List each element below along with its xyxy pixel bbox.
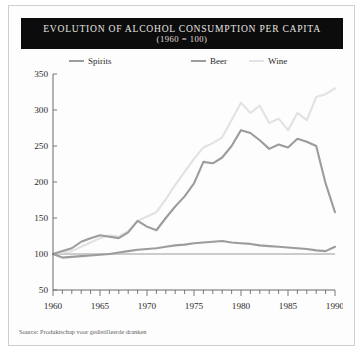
x-tick-label: 1985 [279, 301, 298, 311]
y-tick-label: 100 [34, 249, 48, 259]
y-tick-label: 350 [34, 69, 48, 79]
series-line-beer [53, 241, 335, 258]
series-line-wine [53, 88, 335, 254]
x-tick-label: 1970 [138, 301, 157, 311]
line-chart: 50100150200250300350 1960196519701975198… [21, 54, 343, 318]
page-title: EVOLUTION OF ALCOHOL CONSUMPTION PER CAP… [43, 23, 321, 34]
series-line-spirits [53, 130, 335, 254]
source-note: Source: Produktschap voor gedistilleerde… [19, 328, 146, 335]
chart-title-bar: EVOLUTION OF ALCOHOL CONSUMPTION PER CAP… [21, 18, 343, 49]
x-tick-label: 1980 [232, 301, 251, 311]
x-tick-label: 1990 [326, 301, 343, 311]
y-tick-label: 50 [39, 285, 49, 295]
x-tick-label: 1975 [185, 301, 204, 311]
x-tick-label: 1965 [91, 301, 110, 311]
x-tick-label: 1960 [44, 301, 63, 311]
y-tick-label: 150 [34, 213, 48, 223]
series-group [53, 88, 335, 257]
plot-area: Spirits Beer Wine 50100150200250300350 1… [21, 54, 343, 318]
y-tick-label: 300 [34, 105, 48, 115]
y-tick-label: 250 [34, 141, 48, 151]
y-axis: 50100150200250300350 [34, 69, 57, 295]
x-axis: 1960196519701975198019851990 [44, 290, 343, 311]
chart-card: EVOLUTION OF ALCOHOL CONSUMPTION PER CAP… [8, 5, 355, 346]
y-tick-label: 200 [34, 177, 48, 187]
chart-subtitle: (1960 = 100) [157, 34, 208, 45]
